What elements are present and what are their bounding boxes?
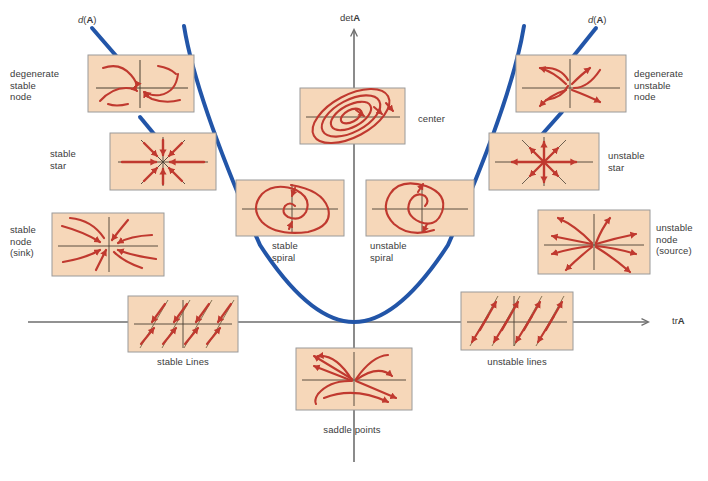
panel-degenerate-unstable-node: [516, 55, 626, 112]
label-unstable-star: unstable star: [608, 150, 670, 173]
label-saddle-points: saddle points: [290, 424, 414, 436]
label-stable-lines: stable Lines: [128, 356, 238, 368]
det-text: det: [340, 12, 353, 23]
panel-saddle-points: [296, 348, 412, 410]
panel-unstable-node-source: [538, 210, 650, 274]
panel-stable-lines: [128, 296, 238, 352]
label-stable-star: stable star: [50, 148, 108, 171]
tr-A-bold: A: [678, 315, 685, 326]
panel-unstable-star: [489, 133, 599, 190]
label-stable-spiral: stable spiral: [272, 240, 332, 263]
paren-close-right: ): [603, 14, 606, 25]
det-A-bold: A: [353, 12, 360, 23]
panel-stable-star: [110, 133, 216, 190]
label-stable-node-sink: stable node (sink): [10, 224, 56, 259]
discriminant-leader-right: [572, 28, 596, 58]
diagram-canvas: [0, 0, 708, 481]
label-unstable-node-source: unstable node (source): [656, 222, 708, 257]
panel-stable-node-sink: [52, 213, 164, 276]
label-unstable-spiral: unstable spiral: [370, 240, 434, 263]
panel-unstable-spiral: [366, 180, 474, 236]
discriminant-label-right: d(A): [588, 14, 607, 25]
label-degenerate-unstable-node: degenerate unstable node: [634, 68, 708, 103]
panel-center: [300, 78, 405, 155]
label-center: center: [418, 113, 478, 125]
label-degenerate-stable-node: degenerate stable node: [10, 68, 88, 103]
panel-unstable-lines: [461, 292, 573, 350]
axis-label-tr-A: trA: [672, 315, 685, 326]
label-unstable-lines: unstable lines: [458, 356, 576, 368]
trace-determinant-diagram: d(A) d(A) detA trA degenerate stable nod…: [0, 0, 708, 481]
panel-degenerate-stable-node: [88, 55, 194, 112]
axis-label-det-A: detA: [340, 12, 360, 23]
panel-stable-spiral: [236, 180, 344, 236]
discriminant-label-left: d(A): [78, 14, 97, 25]
paren-close-left: ): [93, 14, 96, 25]
